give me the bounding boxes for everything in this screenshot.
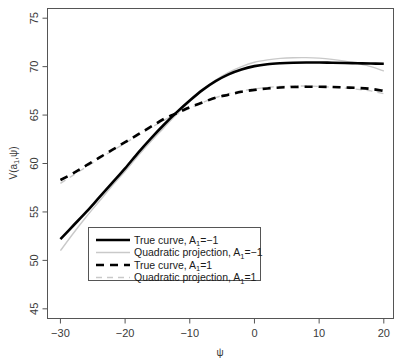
legend-label-main: True curve, A: [134, 259, 196, 271]
x-tick-label: 0: [251, 327, 257, 339]
y-tick-label: 70: [28, 61, 40, 73]
legend-label-tail: =−1: [244, 246, 262, 258]
chart-background: [0, 0, 403, 364]
x-tick-label: −10: [180, 327, 199, 339]
legend-label-main: True curve, A: [134, 234, 196, 246]
legend-label-tail: =1: [244, 271, 256, 283]
x-axis-title: ψ: [216, 347, 223, 358]
y-axis-title-tail: ,ψ): [8, 147, 19, 160]
y-tick-label: 45: [28, 303, 40, 315]
y-axis-title-main: V(a: [8, 163, 19, 179]
y-tick-label: 55: [28, 206, 40, 218]
y-tick-label: 60: [28, 157, 40, 169]
x-tick-label: 20: [378, 327, 390, 339]
y-tick-label: 65: [28, 109, 40, 121]
legend-label-tail: =−1: [200, 234, 218, 246]
chart-legend: True curve, A1=−1Quadratic projection, A…: [89, 228, 263, 286]
legend-label-main: Quadratic projection, A: [134, 271, 240, 283]
x-tick-label: −30: [51, 327, 70, 339]
chart-figure: −30−20−1001020 45505560657075 ψ V(a1,ψ) …: [0, 0, 403, 364]
x-tick-label: −20: [116, 327, 135, 339]
x-tick-label: 10: [313, 327, 325, 339]
y-tick-label: 75: [28, 12, 40, 24]
legend-label-main: Quadratic projection, A: [134, 246, 240, 258]
y-tick-label: 50: [28, 254, 40, 266]
value-function-line-chart: −30−20−1001020 45505560657075 ψ V(a1,ψ) …: [0, 0, 403, 364]
legend-label-tail: =1: [200, 259, 212, 271]
